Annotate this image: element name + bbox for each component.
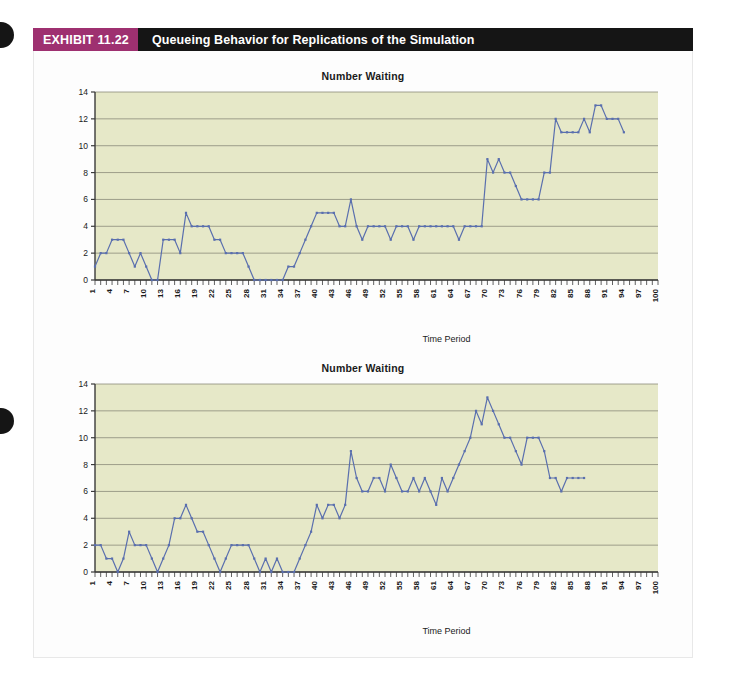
series-point [293,265,295,267]
y-tick-label: 10 [79,141,89,151]
x-tick-label: 94 [617,288,626,297]
x-tick-label: 91 [600,580,609,589]
x-tick-label: 46 [344,580,353,589]
series-point [509,437,511,439]
series-point [583,477,585,479]
series-point [191,225,193,227]
series-point [168,544,170,546]
x-tick-label: 94 [617,580,626,589]
series-point [441,477,443,479]
chart-1-title: Number Waiting [33,70,693,82]
series-point [367,225,369,227]
x-tick-label: 64 [446,288,455,297]
series-point [219,571,221,573]
exhibit-header: EXHIBIT 11.22 Queueing Behavior for Repl… [33,28,693,51]
series-point [338,517,340,519]
series-point [259,571,261,573]
series-point [179,252,181,254]
x-tick-label: 100 [651,288,660,302]
series-point [236,544,238,546]
series-point [503,171,505,173]
x-tick-label: 97 [634,288,643,297]
x-tick-label: 76 [515,580,524,589]
x-tick-label: 10 [139,288,148,297]
series-point [395,225,397,227]
series-point [446,225,448,227]
series-point [316,212,318,214]
series-point [424,477,426,479]
series-point [162,239,164,241]
series-point [435,225,437,227]
series-point [594,104,596,106]
x-tick-label: 67 [463,580,472,589]
series-point [100,252,102,254]
series-point [247,265,249,267]
series-point [213,557,215,559]
x-tick-label: 52 [378,288,387,297]
x-tick-label: 91 [600,288,609,297]
series-point [213,239,215,241]
series-point [117,571,119,573]
series-point [145,544,147,546]
x-tick-label: 73 [497,580,506,589]
series-point [287,571,289,573]
series-point [537,437,539,439]
series-point [560,490,562,492]
series-point [117,239,119,241]
x-tick-label: 16 [173,288,182,297]
series-point [498,158,500,160]
series-point [174,517,176,519]
x-tick-label: 1 [88,288,97,293]
series-point [344,504,346,506]
series-point [100,544,102,546]
series-point [401,225,403,227]
x-tick-label: 49 [361,580,370,589]
x-tick-label: 4 [105,288,114,293]
x-tick-label: 73 [497,288,506,297]
x-tick-label: 13 [156,580,165,589]
series-point [526,198,528,200]
series-point [577,131,579,133]
series-point [276,279,278,281]
x-tick-label: 34 [276,580,285,589]
series-point [191,517,193,519]
x-tick-label: 43 [327,580,336,589]
series-point [515,450,517,452]
series-point [185,212,187,214]
x-tick-label: 55 [395,288,404,297]
series-point [247,544,249,546]
series-point [458,463,460,465]
x-tick-label: 61 [429,580,438,589]
series-point [407,490,409,492]
series-point [532,437,534,439]
x-tick-label: 97 [634,580,643,589]
series-point [344,225,346,227]
series-point [435,504,437,506]
binder-hole-top [0,22,14,48]
series-point [151,557,153,559]
x-tick-label: 25 [224,288,233,297]
y-tick-label: 14 [79,87,89,97]
y-tick-label: 12 [79,114,89,124]
series-point [168,239,170,241]
series-point [287,265,289,267]
series-point [606,118,608,120]
series-point [589,131,591,133]
series-point [139,252,141,254]
series-point [509,171,511,173]
series-point [282,279,284,281]
x-tick-label: 28 [242,580,251,589]
y-tick-label: 6 [83,194,88,204]
series-point [242,544,244,546]
x-tick-label: 16 [173,580,182,589]
x-tick-label: 4 [105,580,114,585]
x-tick-label: 10 [139,580,148,589]
x-tick-label: 31 [259,288,268,297]
series-point [492,410,494,412]
y-tick-label: 0 [83,567,88,577]
series-point [520,463,522,465]
series-point [617,118,619,120]
series-point [293,571,295,573]
x-tick-label: 82 [549,288,558,297]
x-tick-label: 55 [395,580,404,589]
